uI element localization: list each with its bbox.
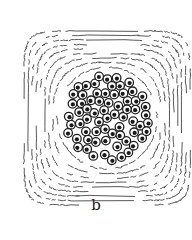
sheath-stroke xyxy=(40,149,41,154)
sheath-stroke xyxy=(117,63,126,64)
sheath-stroke xyxy=(53,46,57,47)
sheath-stroke xyxy=(138,36,151,37)
sheath-stroke xyxy=(74,54,80,55)
sheath-stroke xyxy=(154,41,158,42)
sheath-stroke xyxy=(163,67,165,70)
cell-nucleus xyxy=(102,153,106,157)
cell-nucleus xyxy=(81,93,85,97)
sheath-stroke xyxy=(82,63,87,65)
sheath-stroke xyxy=(132,58,137,60)
sheath-stroke xyxy=(93,187,129,188)
sheath-stroke xyxy=(141,185,148,186)
sheath-stroke xyxy=(55,88,57,94)
sheath-stroke xyxy=(49,178,51,180)
sheath-stroke xyxy=(29,51,30,56)
cell-nucleus xyxy=(103,139,107,143)
sheath-stroke xyxy=(167,79,168,85)
cell-nucleus xyxy=(105,117,109,121)
sheath-stroke xyxy=(116,167,122,168)
sheath-stroke xyxy=(53,31,61,32)
sheath-stroke xyxy=(80,170,87,172)
sheath-stroke xyxy=(161,154,163,159)
sheath-stroke xyxy=(48,162,50,167)
sheath-stroke xyxy=(169,130,170,141)
sheath-stroke xyxy=(110,67,117,68)
cell-nucleus xyxy=(140,95,144,99)
sheath-stroke xyxy=(100,173,115,174)
sheath-stroke xyxy=(161,187,165,188)
sheath-stroke xyxy=(74,187,83,188)
sheath-stroke xyxy=(181,36,182,38)
cell-nucleus xyxy=(91,154,95,158)
sheath-stroke xyxy=(84,53,96,54)
sheath-stroke xyxy=(150,65,152,68)
cell-nucleus xyxy=(110,84,114,88)
sheath-stroke xyxy=(72,181,78,182)
sheath-stroke xyxy=(173,151,174,158)
sheath-stroke xyxy=(53,156,56,161)
sheath-stroke xyxy=(55,52,59,54)
cell-nucleus xyxy=(131,120,135,124)
sheath-stroke xyxy=(55,162,57,165)
sheath-stroke xyxy=(81,182,94,183)
sheath-stroke xyxy=(33,44,35,47)
cell-nucleus xyxy=(140,137,144,141)
cell-nucleus xyxy=(80,102,84,106)
sheath-stroke xyxy=(156,127,157,132)
sheath-stroke xyxy=(121,58,129,59)
cell-nucleus xyxy=(125,99,129,103)
sheath-stroke xyxy=(53,119,54,130)
cell-nucleus xyxy=(85,107,89,111)
sheath-stroke xyxy=(79,72,84,76)
cell-nucleus xyxy=(85,148,89,152)
cell-nucleus xyxy=(77,111,81,115)
sheath-stroke xyxy=(173,89,174,112)
cell-nucleus xyxy=(76,86,80,90)
cell-nucleus xyxy=(103,128,107,132)
sheath-stroke xyxy=(189,54,190,60)
sheath-stroke xyxy=(57,83,59,86)
cell-nucleus xyxy=(145,130,149,134)
sheath-stroke xyxy=(180,169,182,174)
sheath-stroke xyxy=(56,70,59,73)
sheath-stroke xyxy=(168,144,169,151)
sheath-stroke xyxy=(68,82,72,86)
sheath-stroke xyxy=(28,68,29,80)
sheath-stroke xyxy=(140,166,144,168)
sheath-stroke xyxy=(44,192,47,193)
sheath-stroke xyxy=(175,63,177,68)
sheath-stroke xyxy=(172,73,173,78)
sheath-stroke xyxy=(33,164,34,170)
cell-nucleus xyxy=(144,113,148,117)
sheath-stroke xyxy=(50,186,52,188)
sheath-stroke xyxy=(64,190,71,191)
sheath-stroke xyxy=(74,44,86,45)
cell-nucleus xyxy=(93,141,97,145)
sheath-stroke xyxy=(143,83,147,87)
cell-nucleus xyxy=(121,92,125,96)
sheath-stroke xyxy=(165,42,168,43)
sheath-stroke xyxy=(164,141,165,149)
sheath-stroke xyxy=(152,136,154,142)
sheath-stroke xyxy=(60,134,62,139)
sheath-stroke xyxy=(100,168,107,170)
sheath-stroke xyxy=(150,77,154,82)
sheath-stroke xyxy=(34,172,35,176)
sheath-stroke xyxy=(74,49,83,50)
sheath-stroke xyxy=(172,46,174,48)
sheath-stroke xyxy=(111,54,127,55)
cell-nucleus xyxy=(86,138,90,142)
sheath-stroke xyxy=(158,90,160,96)
cell-nucleus xyxy=(85,118,89,122)
sheath-stroke xyxy=(37,48,40,51)
sheath-stroke xyxy=(163,83,165,88)
sheath-stroke xyxy=(162,41,165,42)
sheath-stroke xyxy=(86,40,141,41)
sheath-stroke xyxy=(177,85,178,125)
sheath-stroke xyxy=(59,184,65,185)
cell-nucleus xyxy=(120,156,124,160)
sheath-stroke xyxy=(165,175,168,178)
sheath-stroke xyxy=(44,171,46,174)
sheath-stroke xyxy=(27,42,28,45)
sheath-stroke xyxy=(61,57,66,59)
